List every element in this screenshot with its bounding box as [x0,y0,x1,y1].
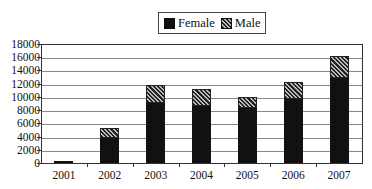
y-tick-label: 14000 [0,64,40,76]
x-tick-label: 2003 [136,169,176,181]
y-tick-label: 18000 [0,38,40,50]
x-tick-label: 2001 [44,169,84,181]
x-tick-label: 2005 [227,169,267,181]
plot-area [41,44,363,164]
y-tick [37,44,41,45]
bar-segment-male [146,85,165,102]
y-tick-label: 12000 [0,78,40,90]
bar-2006 [284,82,303,164]
bar-segment-male [238,97,257,108]
y-tick [37,57,41,58]
y-tick [37,84,41,85]
bar-segment-male [284,82,303,99]
y-tick-label: 8000 [0,104,40,116]
y-tick-label: 6000 [0,117,40,129]
y-tick-label: 0 [0,157,40,169]
y-tick [37,137,41,138]
bar-2002 [100,128,119,164]
y-tick [37,163,41,164]
y-tick-label: 4000 [0,131,40,143]
x-tick-label: 2007 [319,169,359,181]
bar-segment-female [100,138,119,164]
gridline [41,71,362,72]
x-axis [41,163,363,164]
y-tick [37,97,41,98]
bar-segment-female [146,103,165,164]
legend: Female Male [158,12,266,34]
legend-item-female: Female [164,16,215,31]
x-tick [133,163,134,167]
bar-segment-male [192,89,211,106]
y-tick [37,110,41,111]
y-tick [37,150,41,151]
y-tick [37,123,41,124]
y-tick-label: 10000 [0,91,40,103]
x-tick-label: 2004 [182,169,222,181]
gridline [41,58,362,59]
bar-2005 [238,97,257,164]
x-tick [224,163,225,167]
x-tick [179,163,180,167]
x-tick [316,163,317,167]
x-tick [270,163,271,167]
male-swatch-icon [221,18,232,29]
bar-segment-male [100,128,119,137]
legend-label-female: Female [178,16,215,31]
gridline [41,85,362,86]
bar-segment-female [330,78,349,164]
y-tick-label: 16000 [0,51,40,63]
legend-label-male: Male [235,16,261,31]
bar-2003 [146,85,165,164]
bar-2004 [192,89,211,164]
y-tick-label: 2000 [0,144,40,156]
x-tick-label: 2006 [273,169,313,181]
x-tick [87,163,88,167]
bar-2007 [330,56,349,164]
bar-segment-male [330,56,349,78]
y-tick [37,70,41,71]
bar-segment-female [284,99,303,164]
bar-segment-female [192,106,211,164]
y-axis [41,44,42,164]
x-tick-label: 2002 [90,169,130,181]
legend-item-male: Male [221,16,261,31]
bar-segment-female [238,108,257,164]
female-swatch-icon [164,18,175,29]
